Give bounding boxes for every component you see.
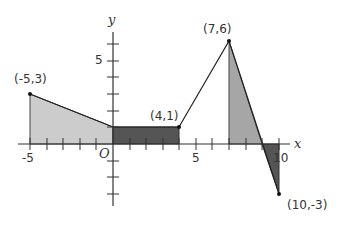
y-tick-label-5: 5 (95, 53, 103, 67)
x-tick-label-5: 5 (192, 151, 200, 165)
point-neg5-3 (28, 92, 32, 96)
point-7-6 (227, 39, 231, 43)
origin-label: O (99, 146, 110, 161)
piecewise-area-chart: x y O -5 5 10 5 (-5,3) (4,1) (7,6) (10,-… (0, 0, 343, 227)
point-label-10-neg3: (10,-3) (287, 198, 327, 212)
point-label-neg5-3: (-5,3) (14, 72, 47, 86)
point-label-4-1: (4,1) (150, 109, 178, 123)
region-trapezoid-left (30, 94, 113, 144)
y-axis-label: y (107, 12, 116, 27)
point-label-7-6: (7,6) (203, 22, 231, 36)
x-axis-label: x (294, 136, 302, 151)
point-4-1 (177, 125, 181, 129)
x-tick-label-neg5: -5 (22, 151, 34, 165)
x-tick-label-10: 10 (273, 151, 288, 165)
point-10-neg3 (277, 192, 281, 196)
